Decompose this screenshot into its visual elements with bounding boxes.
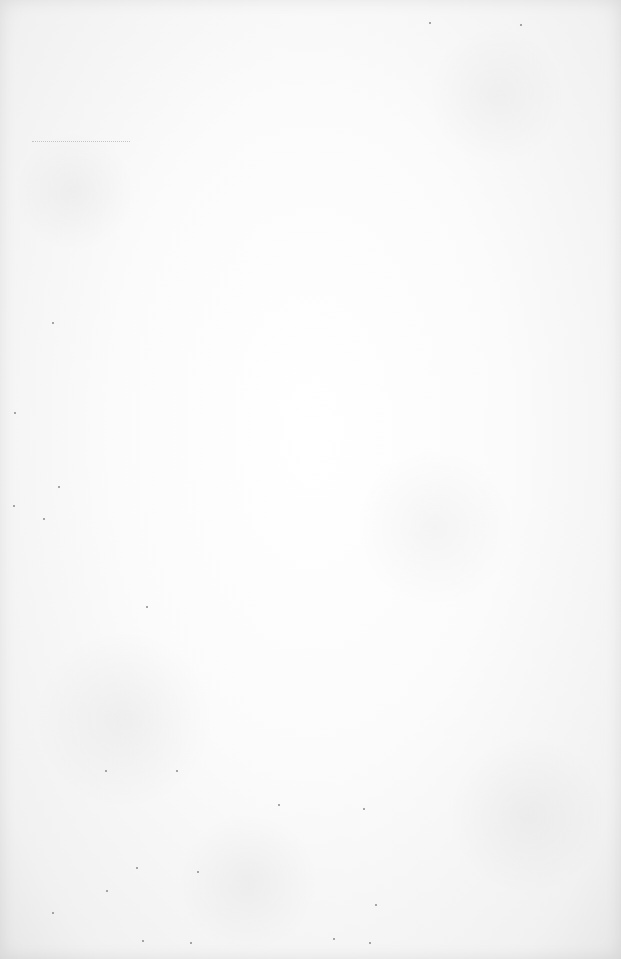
scan-speck	[43, 518, 45, 520]
scan-speck	[13, 505, 15, 507]
scan-speck	[363, 808, 365, 810]
scan-speck	[105, 770, 107, 772]
scan-speck	[369, 942, 371, 944]
scan-speck	[146, 606, 148, 608]
scan-speck	[333, 938, 335, 940]
page-content	[0, 0, 621, 959]
scan-speck	[58, 486, 60, 488]
scan-speck	[375, 904, 377, 906]
scan-speck	[278, 804, 280, 806]
scan-speck	[136, 867, 138, 869]
blank-document-page	[0, 0, 621, 959]
scan-speck	[197, 871, 199, 873]
scan-speck	[190, 942, 192, 944]
scan-speck	[106, 890, 108, 892]
scan-speck	[429, 22, 431, 24]
scan-speck	[14, 412, 16, 414]
scan-speck	[176, 770, 178, 772]
scan-speck	[142, 940, 144, 942]
scan-speck	[52, 912, 54, 914]
scan-speck	[520, 24, 522, 26]
scan-speck	[52, 322, 54, 324]
